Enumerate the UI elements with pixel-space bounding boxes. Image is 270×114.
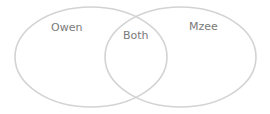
mzee-set-label: Mzee <box>189 21 218 32</box>
mzee-set-ellipse <box>105 7 256 107</box>
venn-diagram <box>0 0 270 114</box>
intersection-label: Both <box>123 30 149 41</box>
owen-set-label: Owen <box>51 22 82 33</box>
owen-set-ellipse <box>15 7 167 107</box>
